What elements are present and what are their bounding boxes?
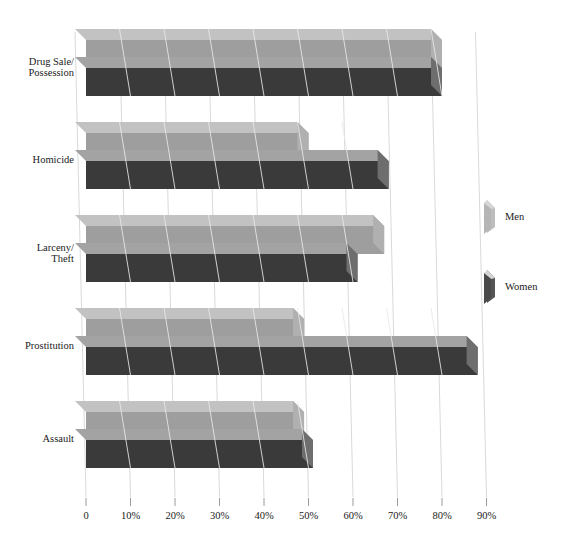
- x-tick-label: 90%: [477, 510, 497, 521]
- gridline: [476, 32, 487, 497]
- chart-canvas: 010%20%30%40%50%60%70%80%90% Drug Sale/P…: [0, 0, 568, 551]
- bar-top-face: [75, 150, 389, 161]
- x-axis-tick-labels: 010%20%30%40%50%60%70%80%90%: [83, 510, 496, 521]
- x-tick-label: 0: [83, 510, 88, 521]
- bar-top-face: [75, 401, 304, 412]
- category-label-3: Prostitution: [25, 340, 75, 351]
- category-label-line: Possession: [28, 67, 74, 78]
- category-labels: Drug Sale/PossessionHomicideLarceny/Thef…: [25, 56, 75, 445]
- gridline: [75, 32, 86, 497]
- category-label-line: Larceny/: [37, 242, 74, 253]
- x-tick-label: 30%: [210, 510, 230, 521]
- bar-front-face: [86, 68, 442, 96]
- bar-women-4: [75, 429, 313, 468]
- bar-top-face: [75, 336, 478, 347]
- bar-front-face: [86, 440, 313, 468]
- x-tick-label: 40%: [254, 510, 274, 521]
- x-tick-label: 50%: [299, 510, 319, 521]
- legend: MenWomen: [484, 200, 538, 304]
- bars-group: [75, 29, 478, 468]
- bar-top-face: [75, 243, 357, 254]
- legend-item-women: Women: [484, 270, 538, 304]
- x-tick-label: 10%: [121, 510, 141, 521]
- gridline: [431, 32, 442, 497]
- bar-women-3: [75, 336, 478, 375]
- category-label-line: Prostitution: [25, 340, 75, 351]
- category-label-0: Drug Sale/Possession: [28, 56, 74, 79]
- legend-label: Men: [505, 211, 525, 222]
- bar-top-face: [75, 308, 304, 319]
- category-label-line: Theft: [51, 253, 74, 264]
- x-tick-label: 80%: [432, 510, 452, 521]
- x-tick-label: 60%: [343, 510, 363, 521]
- bar-front-face: [86, 161, 389, 189]
- category-label-line: Homicide: [33, 154, 75, 165]
- category-label-line: Assault: [43, 433, 75, 444]
- bar-front-face: [86, 347, 478, 375]
- category-label-1: Homicide: [33, 154, 75, 165]
- category-label-4: Assault: [43, 433, 75, 444]
- bar-top-face: [75, 429, 313, 440]
- bar-top-face: [75, 122, 309, 133]
- category-label-2: Larceny/Theft: [37, 242, 74, 265]
- category-label-line: Drug Sale/: [29, 56, 74, 67]
- legend-item-men: Men: [484, 200, 525, 234]
- x-tick-label: 20%: [165, 510, 185, 521]
- legend-label: Women: [505, 281, 538, 292]
- bar-chart: 010%20%30%40%50%60%70%80%90% Drug Sale/P…: [0, 0, 568, 551]
- x-axis-ticks: [86, 498, 487, 506]
- gridline: [387, 32, 398, 497]
- x-tick-label: 70%: [388, 510, 408, 521]
- bar-women-1: [75, 150, 389, 189]
